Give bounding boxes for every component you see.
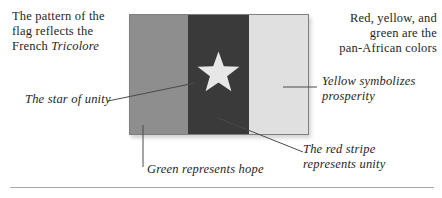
- caption-line: Red, yellow, and: [339, 11, 437, 26]
- caption-line: French Tricolore: [12, 39, 105, 54]
- flag-svg: [130, 15, 308, 134]
- label-yellow-prosperity: Yellow symbolizes prosperity: [322, 74, 416, 104]
- flag-illustration: [129, 14, 309, 135]
- flag-stripe-green: [130, 15, 188, 134]
- caption-text-italic: Tricolore: [51, 39, 99, 53]
- label-star-of-unity: The star of unity: [25, 92, 111, 107]
- caption-line: flag reflects the: [12, 24, 105, 39]
- flag-stripe-yellow: [249, 15, 308, 134]
- caption-pan-african-colors: Red, yellow, and green are the pan-Afric…: [339, 11, 437, 56]
- caption-line: pan-African colors: [339, 41, 437, 56]
- caption-text-regular: French: [12, 39, 51, 53]
- bottom-divider: [10, 187, 434, 188]
- caption-french-tricolore: The pattern of the flag reflects the Fre…: [12, 9, 105, 54]
- label-line: represents unity: [303, 157, 385, 172]
- caption-line: green are the: [339, 26, 437, 41]
- label-line: The red stripe: [303, 142, 385, 157]
- label-line: Yellow symbolizes: [322, 74, 416, 89]
- label-line: prosperity: [322, 89, 416, 104]
- label-green-hope: Green represents hope: [147, 162, 264, 177]
- label-red-unity: The red stripe represents unity: [303, 142, 385, 172]
- flag-diagram-figure: The pattern of the flag reflects the Fre…: [0, 0, 442, 198]
- caption-line: The pattern of the: [12, 9, 105, 24]
